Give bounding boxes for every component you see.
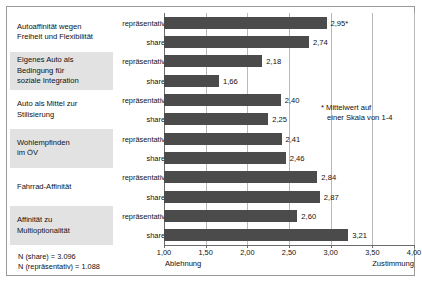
category-band: Autoaffinität wegenFreiheit und Flexibil… bbox=[10, 13, 113, 52]
category-label: Autoaffinität wegenFreiheit und Flexibil… bbox=[17, 22, 93, 43]
bar bbox=[164, 171, 317, 183]
bar-value-label: 3,21 bbox=[352, 231, 367, 240]
gridline bbox=[331, 13, 332, 245]
x-tick-label: 3,50 bbox=[365, 248, 379, 257]
bar-value-label: 2,74 bbox=[313, 38, 328, 47]
category-label-line: Eigenes Auto als bbox=[17, 55, 79, 65]
x-tick-label: 2,50 bbox=[282, 248, 296, 257]
bar-value-label: 2,95* bbox=[331, 19, 349, 28]
category-label-line: Wohlempfinden bbox=[17, 138, 70, 148]
n-share: N (share) = 3.096 bbox=[18, 252, 100, 262]
series-label-share: share bbox=[113, 154, 165, 163]
category-label: Fahrrad-Affinität bbox=[17, 182, 71, 192]
sample-size-note: N (share) = 3.096 N (repräsentativ) = 1.… bbox=[18, 252, 100, 272]
x-tick-label: 1,00 bbox=[157, 248, 171, 257]
bar bbox=[164, 36, 309, 48]
series-label-share: share bbox=[113, 231, 165, 240]
bar-value-label: 2,40 bbox=[285, 96, 300, 105]
category-label-line: im ÖV bbox=[17, 148, 70, 158]
gridline bbox=[414, 13, 415, 245]
category-label: Affinität zuMultioptionalität bbox=[17, 215, 70, 236]
bar bbox=[164, 17, 327, 29]
series-label-repraesentativ: repräsentativ bbox=[113, 96, 165, 105]
bar bbox=[164, 75, 219, 87]
series-label-share: share bbox=[113, 77, 165, 86]
category-label-line: Freiheit und Flexibilität bbox=[17, 32, 93, 42]
x-axis-ticks: 1,001,502,002,503,003,504,00 bbox=[164, 245, 422, 259]
bar-value-label: 1,66 bbox=[223, 77, 238, 86]
n-repraesentativ: N (repräsentativ) = 1.088 bbox=[18, 262, 100, 272]
bar bbox=[164, 113, 268, 125]
category-label-line: Multioptionalität bbox=[17, 226, 70, 236]
category-band: Eigenes Auto alsBedingung fürsoziale Int… bbox=[10, 52, 113, 91]
category-label: Auto als Mittel zurStilisierung bbox=[17, 99, 77, 120]
x-tick-label: 2,00 bbox=[240, 248, 254, 257]
category-label-line: Autoaffinität wegen bbox=[17, 22, 93, 32]
footnote-scale: * Mittelwert auf einer Skala von 1-4 bbox=[321, 103, 392, 124]
gridline bbox=[372, 13, 373, 245]
x-tick-label: 3,00 bbox=[323, 248, 337, 257]
category-label-line: soziale Integration bbox=[17, 76, 79, 86]
series-label-column: repräsentativsharerepräsentativsharerepr… bbox=[115, 7, 168, 275]
bar-value-label: 2,18 bbox=[266, 57, 281, 66]
series-label-repraesentativ: repräsentativ bbox=[113, 212, 165, 221]
series-label-share: share bbox=[113, 193, 165, 202]
bar bbox=[164, 94, 281, 106]
category-label-column: Autoaffinität wegenFreiheit und Flexibil… bbox=[7, 7, 115, 275]
bar bbox=[164, 133, 282, 145]
series-label-repraesentativ: repräsentativ bbox=[113, 135, 165, 144]
category-label-line: Affinität zu bbox=[17, 215, 70, 225]
bar bbox=[164, 210, 297, 222]
series-label-repraesentativ: repräsentativ bbox=[113, 19, 165, 28]
bar-value-label: 2,25 bbox=[272, 115, 287, 124]
bar bbox=[164, 55, 262, 67]
series-label-repraesentativ: repräsentativ bbox=[113, 173, 165, 182]
category-band: Auto als Mittel zurStilisierung bbox=[10, 90, 113, 129]
category-label-line: Bedingung für bbox=[17, 66, 79, 76]
series-label-repraesentativ: repräsentativ bbox=[113, 57, 165, 66]
chart-figure: Autoaffinität wegenFreiheit und Flexibil… bbox=[6, 6, 415, 276]
category-label-line: Fahrrad-Affinität bbox=[17, 182, 71, 192]
bar-value-label: 2,41 bbox=[286, 135, 301, 144]
category-band: Wohlempfindenim ÖV bbox=[10, 129, 113, 168]
bar-value-label: 2,87 bbox=[324, 193, 339, 202]
bar bbox=[164, 152, 286, 164]
category-label-line: Auto als Mittel zur bbox=[17, 99, 77, 109]
plot-area: 2,95*2,742,181,662,402,252,412,462,842,8… bbox=[164, 13, 414, 245]
bar-value-label: 2,84 bbox=[321, 173, 336, 182]
x-tick-label: 1,50 bbox=[198, 248, 212, 257]
category-label: Wohlempfindenim ÖV bbox=[17, 138, 70, 159]
bar-value-label: 2,60 bbox=[301, 212, 316, 221]
bar bbox=[164, 229, 348, 241]
category-label: Eigenes Auto alsBedingung fürsoziale Int… bbox=[17, 55, 79, 86]
series-label-share: share bbox=[113, 115, 165, 124]
category-band: Affinität zuMultioptionalität bbox=[10, 206, 113, 245]
category-band: Fahrrad-Affinität bbox=[10, 168, 113, 207]
plot-inner: 2,95*2,742,181,662,402,252,412,462,842,8… bbox=[164, 13, 414, 245]
bar bbox=[164, 191, 320, 203]
footnote-scale-line1: * Mittelwert auf bbox=[321, 103, 392, 113]
bar-value-label: 2,46 bbox=[290, 154, 305, 163]
x-tick-label: 4,00 bbox=[407, 248, 421, 257]
series-label-share: share bbox=[113, 38, 165, 47]
footnote-scale-line2: einer Skala von 1-4 bbox=[321, 113, 392, 123]
category-label-line: Stilisierung bbox=[17, 110, 77, 120]
